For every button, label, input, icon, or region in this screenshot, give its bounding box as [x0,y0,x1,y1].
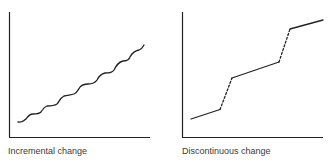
discontinuous-change-diagram [166,0,332,163]
segment-2 [232,62,279,78]
jump-1 [220,78,232,110]
incremental-change-panel: Incremental change [0,0,166,163]
discontinuous-curve [191,20,323,119]
jump-2 [279,29,290,62]
incremental-change-caption: Incremental change [8,146,87,156]
incremental-curve [18,45,144,122]
incremental-change-diagram [0,0,166,163]
axes [9,12,150,138]
segment-3 [290,20,323,29]
segment-1 [191,110,220,120]
discontinuous-change-caption: Discontinuous change [182,146,271,156]
axes [182,12,323,138]
discontinuous-change-panel: Discontinuous change [166,0,332,163]
